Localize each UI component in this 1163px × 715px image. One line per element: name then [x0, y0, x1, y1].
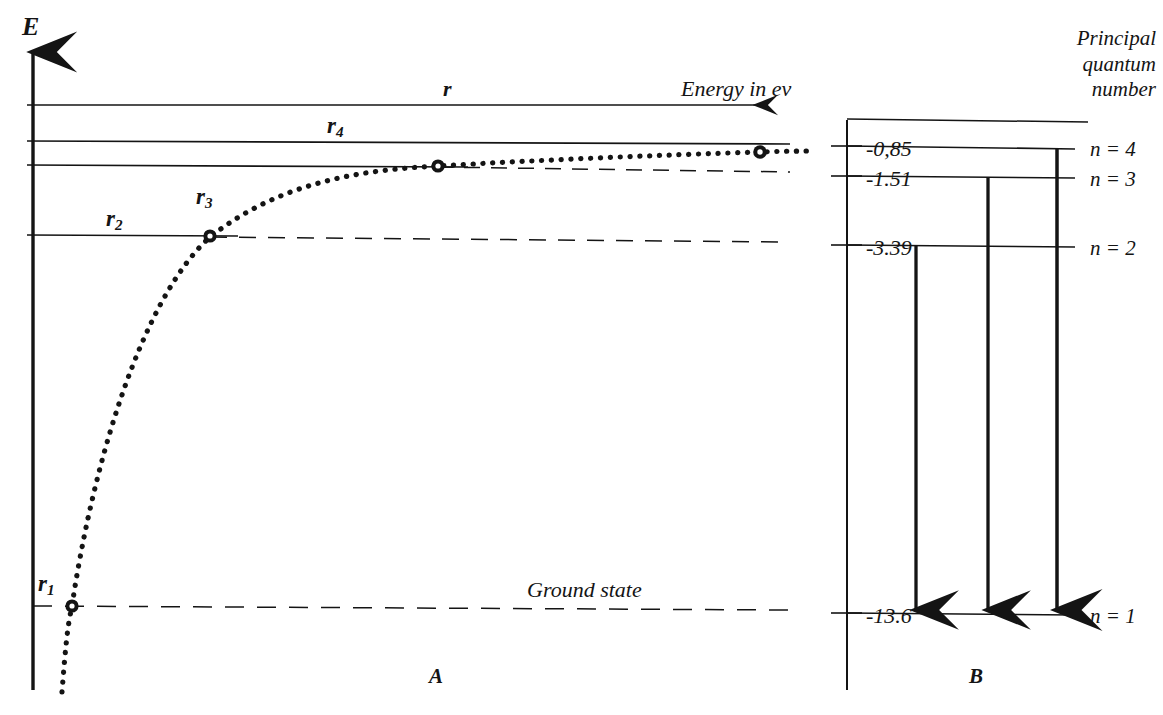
pq-title-line-1: Principal [1020, 26, 1156, 52]
data-point-r3 [431, 159, 444, 172]
panel-label-b: B [969, 664, 983, 689]
energy-scale-axis [831, 120, 862, 690]
radius-label-r2: r2 [106, 206, 123, 234]
curve-data-points [65, 145, 766, 612]
energy-value-n1: -13.6 [866, 603, 912, 629]
panel-label-a: A [429, 664, 443, 689]
transition-arrows [916, 148, 1057, 610]
radius-label-r3: r3 [196, 184, 213, 212]
data-point-r1 [65, 599, 78, 612]
principal-quantum-number-title: Principal quantum number [1020, 26, 1156, 103]
energy-value-n2: -3.39 [866, 235, 912, 261]
energy-axis-title: Energy in ev [681, 76, 791, 102]
pq-title-line-3: number [1020, 77, 1156, 103]
quantum-number-label-n2: n = 2 [1090, 236, 1136, 261]
panel-a-level-lines [27, 141, 790, 236]
radius-label-r4: r4 [327, 113, 344, 141]
axis-label-radius: r [443, 76, 452, 102]
energy-radius-curve [62, 151, 812, 692]
quantum-number-label-n3: n = 3 [1090, 167, 1136, 192]
data-point-r4 [753, 145, 767, 159]
energy-value-n3: -1.51 [866, 166, 912, 192]
panel-a-dashed-levels [33, 167, 790, 610]
radius-label-r1: r1 [38, 571, 55, 599]
ground-state-label: Ground state [527, 577, 642, 603]
figure-canvas: E r r4 r3 r2 r1 Energy in ev Ground stat… [0, 0, 1163, 715]
diagram-svg [0, 0, 1163, 715]
axis-label-energy: E [22, 12, 39, 42]
energy-value-n4: -0,85 [866, 136, 912, 162]
panel-b-level-lines [847, 119, 1088, 615]
quantum-number-label-n1: n = 1 [1090, 604, 1136, 629]
quantum-number-label-n4: n = 4 [1090, 137, 1136, 162]
data-point-r2 [203, 229, 216, 242]
pq-title-line-2: quantum [1020, 52, 1156, 78]
